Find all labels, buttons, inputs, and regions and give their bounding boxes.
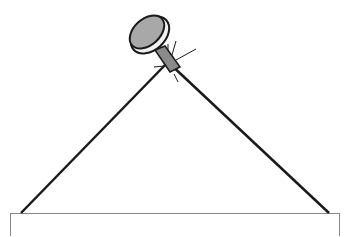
board	[11, 214, 340, 237]
nail-wire-illustration	[0, 0, 352, 236]
wire-left	[21, 62, 168, 213]
wire-right	[168, 62, 329, 213]
